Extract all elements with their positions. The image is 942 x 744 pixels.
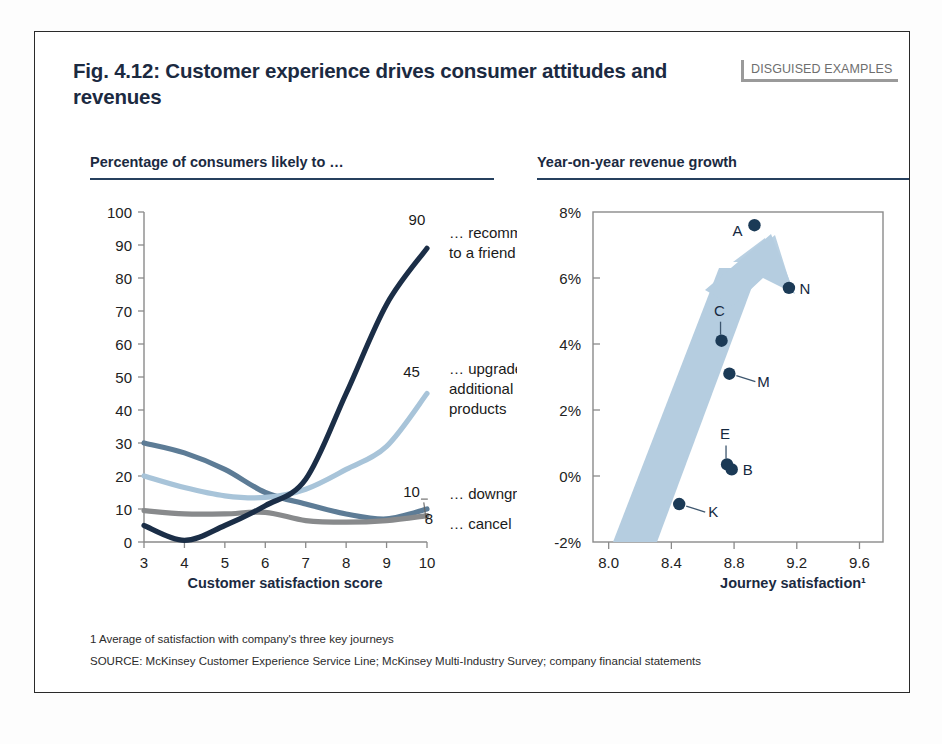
series-line-downgrade (144, 443, 427, 519)
y-tick-label: 30 (115, 435, 132, 452)
y-tick-label: 80 (115, 270, 132, 287)
scatter-x-axis-title: Journey satisfaction¹ (720, 575, 866, 591)
right-panel-rule (537, 178, 909, 180)
y-tick-label: 20 (115, 468, 132, 485)
line-chart: 0102030405060708090100 345678910 9045108… (57, 190, 517, 610)
figure-page: Fig. 4.12: Customer experience drives co… (0, 0, 942, 744)
y-tick-label: 50 (115, 369, 132, 386)
x-tick-label: 8.4 (661, 554, 682, 571)
title-row: Fig. 4.12: Customer experience drives co… (73, 58, 873, 110)
y-tick-label: 0 (124, 534, 132, 551)
x-tick-label: 9.6 (849, 554, 870, 571)
figure-frame: Fig. 4.12: Customer experience drives co… (34, 31, 910, 693)
x-tick-label: 10 (419, 554, 436, 571)
line-chart-y-tick-labels: 0102030405060708090100 (107, 204, 132, 551)
scatter-point-label-M: M (757, 373, 770, 390)
y-tick-label: 100 (107, 204, 132, 221)
scatter-y-tick-labels: -2%0%2%4%6%8% (554, 204, 581, 551)
scatter-chart: -2%0%2%4%6%8% 8.08.48.89.29.6 ANCMEBK Jo… (505, 190, 915, 610)
scatter-x-ticks (609, 542, 860, 549)
scatter-point-label-A: A (732, 222, 742, 239)
right-panel-title: Year-on-year revenue growth (537, 154, 737, 170)
scatter-x-tick-labels: 8.08.48.89.29.6 (598, 554, 870, 571)
endpoint-value-upgrade: 45 (403, 363, 420, 380)
x-tick-label: 4 (180, 554, 188, 571)
series-line-recommend-to-a-friend (144, 248, 427, 540)
x-tick-label: 3 (140, 554, 148, 571)
y-tick-label: 2% (559, 402, 581, 419)
y-tick-label: 40 (115, 402, 132, 419)
scatter-point-label-N: N (800, 280, 811, 297)
scatter-point-label-E: E (720, 425, 730, 442)
scatter-point-label-B: B (743, 461, 753, 478)
y-tick-label: 6% (559, 270, 581, 287)
x-tick-label: 5 (221, 554, 229, 571)
left-panel-rule (90, 178, 494, 180)
disguised-examples-badge: DISGUISED EXAMPLES (741, 60, 898, 82)
line-chart-x-axis-title: Customer satisfaction score (187, 575, 382, 591)
x-tick-label: 7 (302, 554, 310, 571)
series-line-upgrade-or-buy-additional-products (144, 394, 427, 498)
scatter-chart-svg: -2%0%2%4%6%8% 8.08.48.89.29.6 ANCMEBK Jo… (505, 190, 915, 610)
line-chart-series-group (144, 248, 427, 540)
scatter-point-label-C: C (714, 302, 725, 319)
y-tick-label: 90 (115, 237, 132, 254)
y-tick-label: 60 (115, 336, 132, 353)
endpoint-value-recommend: 90 (409, 211, 426, 228)
x-tick-label: 8.8 (724, 554, 745, 571)
left-panel-title: Percentage of consumers likely to … (90, 154, 344, 170)
x-tick-label: 8 (342, 554, 350, 571)
footnote-source: SOURCE: McKinsey Customer Experience Ser… (90, 650, 880, 672)
endpoint-value-downgrade: 10 (403, 483, 420, 500)
x-tick-label: 8.0 (598, 554, 619, 571)
y-tick-label: 0% (559, 468, 581, 485)
y-tick-label: 10 (115, 501, 132, 518)
y-tick-label: -2% (554, 534, 581, 551)
footnote-1: 1 Average of satisfaction with company's… (90, 628, 880, 650)
x-tick-label: 9 (382, 554, 390, 571)
y-tick-label: 8% (559, 204, 581, 221)
x-tick-label: 9.2 (786, 554, 807, 571)
y-tick-label: 70 (115, 303, 132, 320)
series-label-cancel: … cancel (449, 515, 512, 532)
line-chart-x-tick-labels: 345678910 (140, 554, 436, 571)
footnotes: 1 Average of satisfaction with company's… (90, 628, 880, 673)
scatter-point-label-K: K (708, 503, 718, 520)
y-tick-label: 4% (559, 336, 581, 353)
endpoint-value-cancel: 8 (425, 510, 433, 527)
page-title: Fig. 4.12: Customer experience drives co… (73, 58, 683, 110)
x-tick-label: 6 (261, 554, 269, 571)
line-chart-svg: 0102030405060708090100 345678910 9045108… (57, 190, 517, 610)
